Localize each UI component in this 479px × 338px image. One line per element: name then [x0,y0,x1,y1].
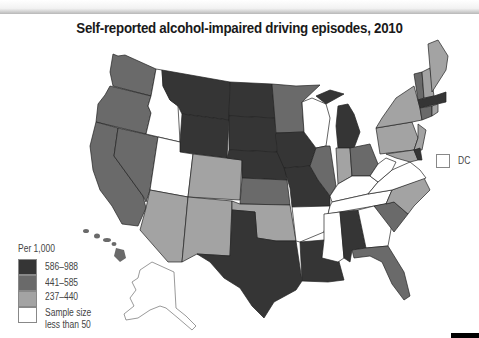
state-wy[interactable] [180,114,229,158]
dc-swatch[interactable] [436,154,450,168]
page-corner-tab [451,333,479,338]
state-nm[interactable] [182,197,232,262]
legend-swatch-mid [18,275,37,291]
state-ct[interactable] [420,106,432,120]
state-ri[interactable] [432,104,438,116]
legend-label-low: 237–440 [45,291,78,303]
state-ks[interactable] [240,178,290,205]
legend-swatch-high [18,259,37,275]
legend-swatch-none [18,307,37,323]
legend-label-mid: 441–585 [45,277,78,289]
state-hi[interactable] [83,229,126,262]
legend-swatch-low [18,291,37,307]
state-fl[interactable] [352,246,410,300]
state-co[interactable] [188,154,242,200]
legend-label-none-line1: Sample size [45,307,91,319]
state-az[interactable] [140,190,188,262]
state-ny[interactable] [376,86,422,128]
state-sd[interactable] [229,116,277,152]
state-me[interactable] [428,40,448,92]
legend-label-none-line2: less than 50 [45,319,91,331]
dc-label: DC [458,155,470,166]
legend-label-high: 586–988 [45,261,78,273]
legend-title: Per 1,000 [18,243,55,254]
state-nd[interactable] [229,82,275,118]
state-ak[interactable] [124,262,196,330]
